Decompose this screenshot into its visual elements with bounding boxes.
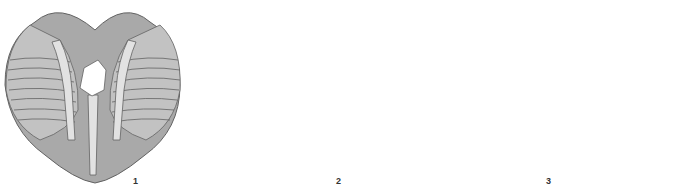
panel-1-label: 1 — [133, 176, 138, 186]
panel-2-label: 2 — [336, 176, 341, 186]
panel-3-label: 3 — [546, 176, 551, 186]
anatomy-figure — [0, 0, 688, 195]
panel-1 — [5, 13, 180, 183]
illustration-stage: 1 2 3 — [0, 0, 688, 195]
